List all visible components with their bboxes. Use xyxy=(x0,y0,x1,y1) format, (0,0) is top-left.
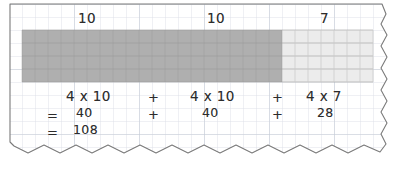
product-term-3: 4 x 7 xyxy=(306,90,342,104)
sum-operator-2: + xyxy=(272,108,283,121)
sum-term-3: 28 xyxy=(317,107,334,120)
product-term-2: 4 x 10 xyxy=(190,90,235,104)
handwriting-layer: 10 10 7 4 x 10 + 4 x 10 + 4 x 7 = 40 + 4… xyxy=(0,0,420,173)
total-row-equals-sign: = xyxy=(47,126,58,139)
segment-1-length-label: 10 xyxy=(78,12,96,26)
worksheet-page: 10 10 7 4 x 10 + 4 x 10 + 4 x 7 = 40 + 4… xyxy=(0,0,420,173)
segment-2-length-label: 10 xyxy=(207,12,225,26)
sum-term-1: 40 xyxy=(76,107,93,120)
segment-3-length-label: 7 xyxy=(320,12,329,26)
product-operator-2: + xyxy=(272,91,283,104)
product-term-1: 4 x 10 xyxy=(66,90,111,104)
sum-term-2: 40 xyxy=(202,107,219,120)
product-operator-1: + xyxy=(148,91,159,104)
sum-row-equals-sign: = xyxy=(47,109,58,122)
sum-operator-1: + xyxy=(148,108,159,121)
total-value: 108 xyxy=(73,124,98,137)
